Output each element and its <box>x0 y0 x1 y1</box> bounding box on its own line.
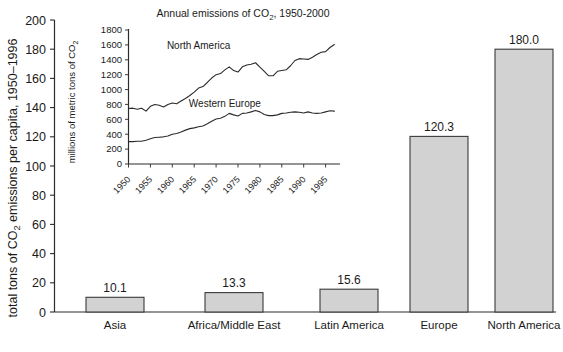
inset-x-tick: 1985 <box>264 164 285 196</box>
main-y-tick: 100 <box>25 160 54 174</box>
inset-y-tick-label: 1400 <box>101 54 122 65</box>
category-label-latin-america: Latin America <box>314 319 384 331</box>
main-y-tick-label: 100 <box>25 160 46 174</box>
bar-africa-middle-east[interactable] <box>205 293 263 312</box>
inset-y-tick-label: 1800 <box>101 24 122 35</box>
bar-group-north-america[interactable]: 180.0 North America <box>488 33 561 332</box>
main-y-tick-label: 0 <box>39 306 46 320</box>
bar-value-africa-middle-east: 13.3 <box>222 276 246 290</box>
inset-chart: Annual emissions of CO2, 1950-2000 milli… <box>66 7 340 196</box>
line-western-europe <box>129 110 335 141</box>
inset-y-tick-label: 1600 <box>101 39 122 50</box>
inset-x-tick: 1960 <box>155 164 176 196</box>
main-y-tick-label: 180 <box>25 43 46 57</box>
inset-x-tick-label: 1995 <box>308 174 329 195</box>
main-y-tick: 120 <box>25 130 54 144</box>
inset-y-tick-label: 0 <box>117 158 122 169</box>
inset-x-tick-label: 1990 <box>286 174 307 195</box>
inset-y-tick: 200 <box>106 143 128 154</box>
inset-y-tick: 1600 <box>101 39 129 50</box>
main-y-axis-title: total tons of CO2 emissions per capita, … <box>6 38 22 317</box>
main-y-tick-label: 140 <box>25 101 46 115</box>
inset-chart-title: Annual emissions of CO2, 1950-2000 <box>156 7 329 22</box>
bar-group-asia[interactable]: 10.1 Asia <box>86 281 144 331</box>
inset-x-tick-label: 1985 <box>264 174 285 195</box>
inset-x-tick: 1955 <box>133 164 154 196</box>
inset-x-tick-label: 1970 <box>199 174 220 195</box>
inset-x-ticks: 1950 1955 1960 1965 1970 1975 1980 1985 … <box>111 164 329 196</box>
series-label-western-europe: Western Europe <box>189 98 262 109</box>
bar-europe[interactable] <box>410 136 468 312</box>
bar-north-america[interactable] <box>495 49 553 312</box>
inset-x-tick-label: 1960 <box>155 174 176 195</box>
bar-value-latin-america: 15.6 <box>337 273 361 287</box>
main-y-tick: 40 <box>32 247 54 261</box>
inset-y-tick: 400 <box>106 129 128 140</box>
inset-y-ticks: 0 200 400 600 800 1000 1200 1400 1600 18… <box>101 24 129 169</box>
inset-x-tick: 1980 <box>243 164 264 196</box>
category-label-europe: Europe <box>420 319 457 331</box>
co2-emissions-figure: total tons of CO2 emissions per capita, … <box>0 0 563 352</box>
inset-y-tick-label: 800 <box>106 99 122 110</box>
main-y-tick-label: 200 <box>25 14 46 28</box>
inset-y-tick: 600 <box>106 114 128 125</box>
inset-y-tick: 0 <box>117 158 129 169</box>
main-y-tick: 180 <box>25 43 54 57</box>
main-y-tick-label: 20 <box>32 276 46 290</box>
bar-value-asia: 10.1 <box>103 281 127 295</box>
inset-y-tick-label: 1200 <box>101 69 122 80</box>
inset-x-tick: 1995 <box>308 164 329 196</box>
main-y-tick: 60 <box>32 218 54 232</box>
main-y-tick: 80 <box>32 189 54 203</box>
main-chart: total tons of CO2 emissions per capita, … <box>6 14 561 332</box>
bar-value-north-america: 180.0 <box>509 33 539 47</box>
inset-x-tick-label: 1975 <box>221 174 242 195</box>
bar-group-europe[interactable]: 120.3 Europe <box>410 120 468 331</box>
bar-group-africa-middle-east[interactable]: 13.3 Africa/Middle East <box>188 276 281 331</box>
category-label-asia: Asia <box>104 319 127 331</box>
main-y-tick-label: 160 <box>25 72 46 86</box>
main-y-tick-label: 120 <box>25 130 46 144</box>
main-y-tick-label: 60 <box>32 218 46 232</box>
inset-y-tick-label: 400 <box>106 129 122 140</box>
inset-x-tick: 1970 <box>199 164 220 196</box>
bar-value-europe: 120.3 <box>424 120 454 134</box>
inset-y-tick: 1800 <box>101 24 129 35</box>
inset-x-tick: 1965 <box>177 164 198 196</box>
inset-x-tick: 1990 <box>286 164 307 196</box>
inset-x-tick-label: 1950 <box>111 174 132 195</box>
bar-latin-america[interactable] <box>320 289 378 312</box>
inset-y-tick-label: 1000 <box>101 84 122 95</box>
chart-canvas: total tons of CO2 emissions per capita, … <box>0 0 563 352</box>
category-label-africa-middle-east: Africa/Middle East <box>188 319 281 331</box>
inset-x-tick-label: 1980 <box>243 174 264 195</box>
inset-y-tick-label: 200 <box>106 143 122 154</box>
inset-y-tick: 1200 <box>101 69 129 80</box>
main-y-ticks: 0 20 40 60 80 100 120 140 160 180 200 <box>25 14 54 320</box>
main-y-tick: 200 <box>25 14 54 28</box>
inset-y-tick: 1000 <box>101 84 129 95</box>
bar-asia[interactable] <box>86 297 144 312</box>
bar-group-latin-america[interactable]: 15.6 Latin America <box>314 273 384 332</box>
main-y-tick: 20 <box>32 276 54 290</box>
inset-y-tick: 800 <box>106 99 128 110</box>
main-y-tick: 140 <box>25 101 54 115</box>
series-label-north-america: North America <box>167 40 231 51</box>
category-label-north-america: North America <box>488 319 561 331</box>
main-y-tick: 160 <box>25 72 54 86</box>
main-y-tick-label: 40 <box>32 247 46 261</box>
inset-y-axis-title: millions of metric tons of CO2 <box>66 41 79 164</box>
inset-y-tick: 1400 <box>101 54 129 65</box>
inset-y-tick-label: 600 <box>106 114 122 125</box>
inset-x-tick-label: 1965 <box>177 174 198 195</box>
inset-x-tick-label: 1955 <box>133 174 154 195</box>
main-y-tick-label: 80 <box>32 189 46 203</box>
main-y-tick: 0 <box>39 306 54 320</box>
inset-x-tick: 1975 <box>221 164 242 196</box>
